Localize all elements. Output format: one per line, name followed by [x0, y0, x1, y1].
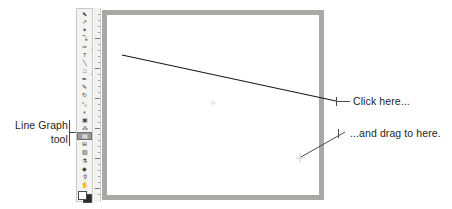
paintbrush-icon: ✒ [82, 76, 87, 82]
selection-tool-icon: ⬉ [82, 11, 87, 17]
tool-hand-tool[interactable]: ✋ [77, 181, 92, 189]
tool-direct-selection-tool[interactable]: ↗ [77, 18, 92, 26]
leader-click-here-tick [336, 97, 337, 106]
tool-mesh-tool[interactable]: ⊞ [77, 140, 92, 148]
tool-blend-tool[interactable]: ◆ [77, 165, 92, 173]
direct-selection-tool-icon: ↗ [82, 19, 87, 25]
tool-line-segment-tool[interactable]: ╲ [77, 59, 92, 67]
color-swatches[interactable] [77, 190, 92, 201]
type-icon: T [83, 52, 86, 58]
label-line-graph-tool-line1: Line Graph [15, 119, 68, 131]
lasso-icon: ⤵ [82, 36, 88, 42]
tool-lasso-tool[interactable]: ⤵ [77, 34, 92, 42]
label-click-here: Click here... [353, 95, 410, 108]
scale-icon: ⤡ [82, 101, 87, 107]
tool-line-graph-tool[interactable]: ▤ [77, 132, 92, 140]
pencil-icon: ✎ [82, 84, 87, 90]
zoom-icon: ⚲ [83, 174, 87, 180]
tool-free-transform-tool[interactable]: ▣ [77, 116, 92, 124]
tool-symbol-sprayer-tool[interactable]: ⁂ [77, 124, 92, 132]
line-segment-icon: ╲ [83, 60, 87, 66]
free-transform-icon: ▣ [82, 117, 88, 123]
label-line-graph-tool-line2: tool [51, 133, 68, 145]
tool-scale-tool[interactable]: ⤡ [77, 100, 92, 108]
vertical-ruler[interactable] [94, 8, 101, 202]
tool-eyedropper-tool[interactable]: ⚗ [77, 157, 92, 165]
magic-wand-icon: ✦ [82, 27, 87, 33]
symbol-sprayer-icon: ⁂ [82, 125, 88, 131]
tool-selection-tool[interactable]: ⬉ [77, 10, 92, 18]
tool-rectangle-tool[interactable]: □ [77, 67, 92, 75]
artboard-frame [102, 10, 324, 200]
leader-drag-here-tick [338, 129, 339, 138]
tool-pencil-tool[interactable]: ✎ [77, 83, 92, 91]
figure-canvas: Line Graph tool ⬉ ↗ ✦ ⤵ ✑ T ╲ □ ✒ ✎ ↻ ⤡ … [0, 0, 452, 209]
tool-rotate-tool[interactable]: ↻ [77, 91, 92, 99]
blend-icon: ◆ [82, 166, 87, 172]
eyedropper-icon: ⚗ [82, 158, 87, 164]
leader-click-here-arm [336, 101, 350, 102]
tool-pen-tool[interactable]: ✑ [77, 43, 92, 51]
mesh-icon: ⊞ [82, 141, 87, 147]
hand-icon: ✋ [81, 182, 88, 188]
label-drag-to-here: ...and drag to here. [350, 127, 441, 140]
leader-line-graph-tool-bracket [69, 120, 70, 146]
gradient-icon: ▧ [82, 150, 88, 156]
tool-gradient-tool[interactable]: ▧ [77, 148, 92, 156]
application-window: ⬉ ↗ ✦ ⤵ ✑ T ╲ □ ✒ ✎ ↻ ⤡ ◐ ▣ ⁂ ▤ ⊞ ▧ ⚗ ◆ … [76, 8, 324, 202]
label-line-graph-tool: Line Graph tool [6, 118, 68, 146]
tool-zoom-tool[interactable]: ⚲ [77, 173, 92, 181]
line-graph-icon: ▤ [82, 133, 88, 139]
artboard-canvas[interactable] [107, 15, 319, 195]
warp-icon: ◐ [83, 109, 86, 115]
tool-magic-wand-tool[interactable]: ✦ [77, 26, 92, 34]
rectangle-icon: □ [83, 68, 86, 74]
tools-palette[interactable]: ⬉ ↗ ✦ ⤵ ✑ T ╲ □ ✒ ✎ ↻ ⤡ ◐ ▣ ⁂ ▤ ⊞ ▧ ⚗ ◆ … [76, 8, 93, 202]
tool-paintbrush-tool[interactable]: ✒ [77, 75, 92, 83]
tool-type-tool[interactable]: T [77, 51, 92, 59]
rotate-icon: ↻ [82, 93, 87, 99]
tool-warp-tool[interactable]: ◐ [77, 108, 92, 116]
pen-icon: ✑ [82, 44, 87, 50]
fill-color-swatch[interactable] [78, 191, 87, 200]
